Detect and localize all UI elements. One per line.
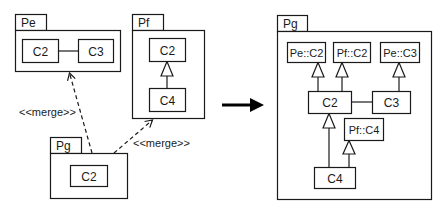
class-pf-c4-label: Pf::C4 bbox=[349, 124, 380, 136]
package-pf: Pf C2 C4 bbox=[133, 15, 205, 119]
class-c4-label: C4 bbox=[327, 172, 343, 186]
package-pg-result-name: Pg bbox=[283, 17, 298, 31]
class-pe-c3-label: Pe::C3 bbox=[383, 47, 417, 59]
package-pg-source: Pg C2 bbox=[51, 138, 128, 199]
class-c2-label: C2 bbox=[322, 96, 338, 110]
class-pf-c2-label: Pf::C2 bbox=[337, 47, 368, 59]
class-pg-c2-label: C2 bbox=[81, 170, 97, 184]
package-merge-diagram: Pe C2 C3 Pf C2 C4 Pg C2 <<merge>> <<merg… bbox=[0, 0, 445, 210]
class-pf-c4-label: C4 bbox=[160, 94, 176, 108]
class-pe-c2-label: C2 bbox=[33, 45, 49, 59]
package-pg-name: Pg bbox=[56, 139, 71, 153]
package-pf-name: Pf bbox=[138, 16, 150, 30]
transform-arrow-icon bbox=[222, 98, 264, 112]
merge-label-pf: <<merge>> bbox=[133, 137, 190, 149]
class-c3-label: C3 bbox=[384, 96, 400, 110]
package-pg-result: Pg Pe::C2 Pf::C2 Pe::C3 C2 C3 Pf::C4 C4 bbox=[278, 16, 432, 200]
merge-label-pe: <<merge>> bbox=[19, 106, 76, 118]
class-pe-c2-label: Pe::C2 bbox=[290, 47, 324, 59]
class-pe-c3-label: C3 bbox=[88, 45, 104, 59]
package-pe: Pe C2 C3 bbox=[16, 15, 121, 72]
class-pf-c2-label: C2 bbox=[160, 44, 176, 58]
package-pe-name: Pe bbox=[21, 16, 36, 30]
